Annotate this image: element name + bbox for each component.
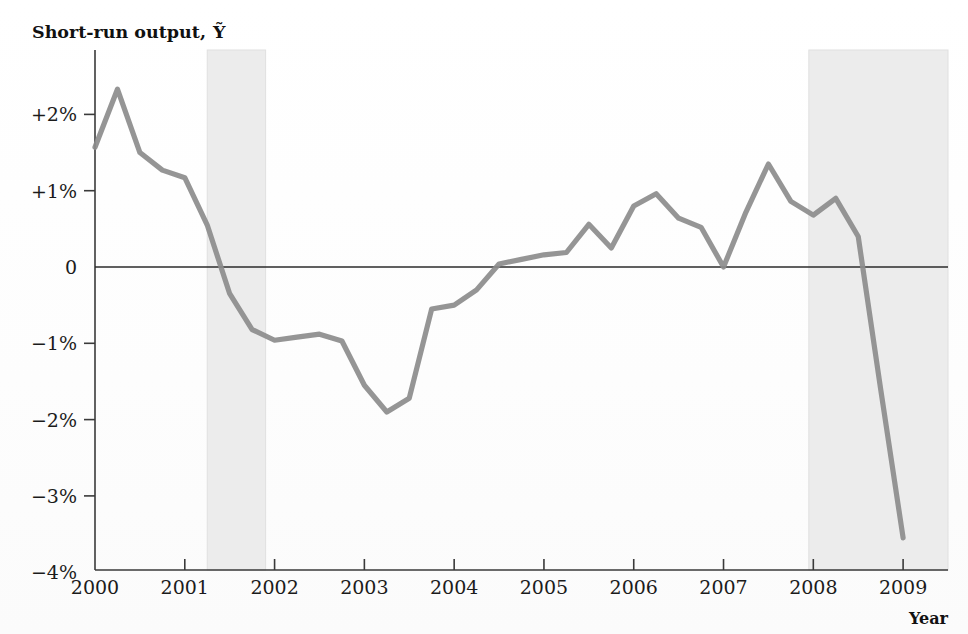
axis-tick-labels: +2%+1%0−1%−2%−3%−4%200020012002200320042… — [31, 103, 927, 598]
x-tick-label-2002: 2002 — [250, 576, 298, 598]
figure-container: +2%+1%0−1%−2%−3%−4%200020012002200320042… — [0, 0, 968, 634]
chart-svg: +2%+1%0−1%−2%−3%−4%200020012002200320042… — [0, 0, 968, 634]
x-tick-label-2003: 2003 — [340, 576, 388, 598]
x-tick-label-2005: 2005 — [520, 576, 568, 598]
y-tick-label-0: 0 — [65, 256, 77, 278]
y-tick-label-+2%: +2% — [31, 103, 77, 125]
x-tick-label-2000: 2000 — [71, 576, 119, 598]
x-tick-label-2001: 2001 — [161, 576, 209, 598]
x-tick-label-2009: 2009 — [879, 576, 927, 598]
x-tick-label-2008: 2008 — [789, 576, 837, 598]
y-tick-label-+1%: +1% — [31, 180, 77, 202]
x-tick-label-2007: 2007 — [699, 576, 747, 598]
shaded-band-recession-2001 — [207, 50, 265, 570]
x-axis-title: Year — [908, 609, 949, 628]
y-axis-title: Short-run output, — [32, 22, 206, 42]
y-tick-label--2%: −2% — [31, 409, 77, 431]
y-axis-symbol: Ỹ — [212, 21, 226, 42]
x-tick-label-2004: 2004 — [430, 576, 478, 598]
y-tick-label--1%: −1% — [31, 332, 77, 354]
x-tick-label-2006: 2006 — [610, 576, 658, 598]
shaded-band-recession-2008 — [809, 50, 948, 570]
recession-bands — [207, 50, 948, 570]
y-tick-label--3%: −3% — [31, 485, 77, 507]
